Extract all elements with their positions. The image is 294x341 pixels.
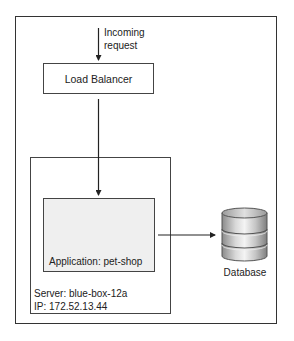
database-label: Database bbox=[222, 267, 268, 278]
database-cylinder-icon bbox=[222, 208, 267, 261]
diagram-connectors bbox=[0, 0, 294, 341]
